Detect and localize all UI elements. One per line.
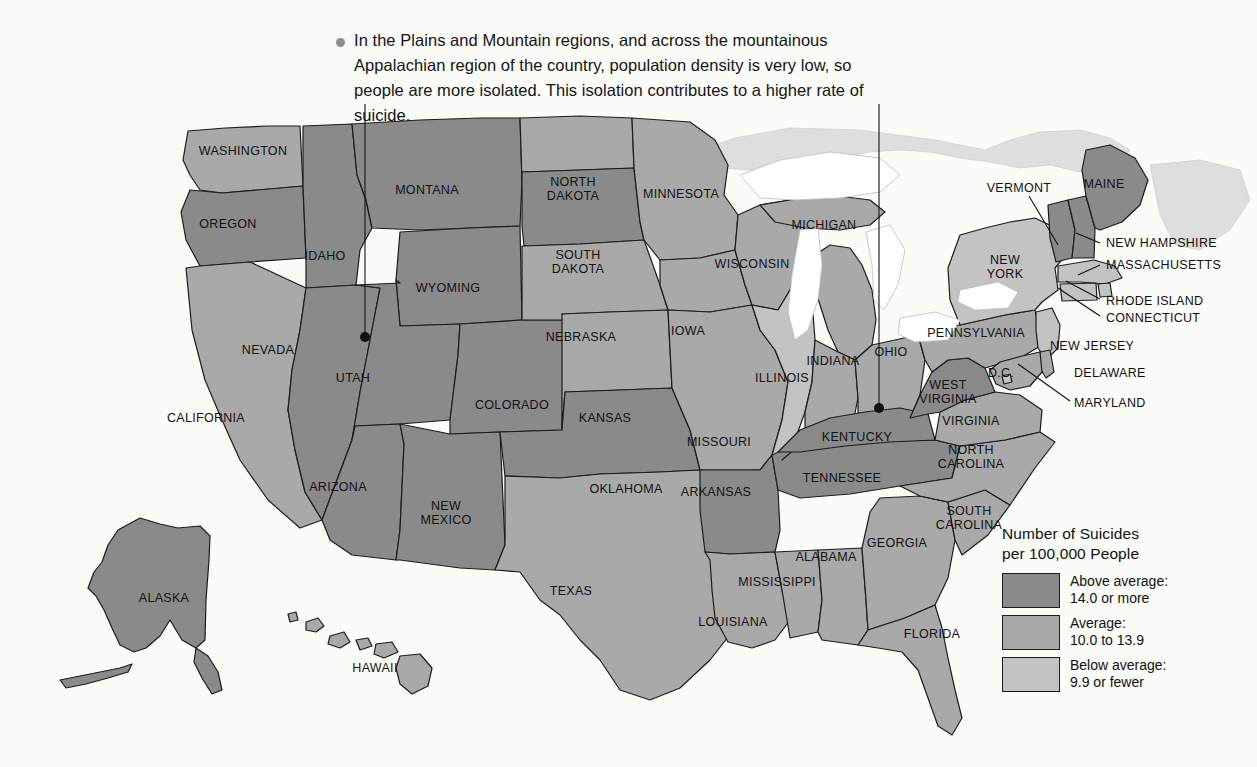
state-MN [632, 118, 738, 260]
hawaii-islands [288, 612, 432, 694]
legend-title: Number of Suicides per 100,000 People [1002, 524, 1252, 565]
edge-label-ct: CONNECTICUT [1106, 311, 1200, 325]
legend-title-line2: per 100,000 People [1002, 544, 1252, 564]
legend-title-line1: Number of Suicides [1002, 524, 1252, 544]
legend-rows: Above average:14.0 or moreAverage:10.0 t… [1002, 573, 1252, 692]
legend-label-average: Average:10.0 to 13.9 [1070, 615, 1144, 650]
legend-label-above: Above average:14.0 or more [1070, 573, 1168, 608]
state-WY [396, 226, 522, 326]
legend-label-below: Below average:9.9 or fewer [1070, 657, 1167, 692]
legend-label-line1: Average: [1070, 615, 1144, 633]
edge-label-nj: NEW JERSEY [1050, 339, 1134, 353]
state-AL [818, 548, 868, 645]
legend-swatch-above [1002, 573, 1060, 608]
legend-swatch-average [1002, 615, 1060, 650]
state-HI-2 [328, 632, 350, 648]
legend-label-line1: Below average: [1070, 657, 1167, 675]
state-AK-islands [60, 664, 132, 688]
state-CO [450, 320, 565, 434]
edge-label-de: DELAWARE [1074, 366, 1146, 380]
state-GA [862, 496, 955, 630]
legend-item-average: Average:10.0 to 13.9 [1002, 615, 1252, 650]
legend-item-above: Above average:14.0 or more [1002, 573, 1252, 608]
appalachian-leader-dot [874, 403, 884, 413]
legend-label-line2: 9.9 or fewer [1070, 674, 1167, 692]
edge-label-ri: RHODE ISLAND [1106, 294, 1203, 308]
state-HI-6 [288, 612, 298, 622]
state-DC [1002, 374, 1012, 384]
callout-text: In the Plains and Mountain regions, and … [354, 28, 896, 128]
state-CT [1060, 283, 1097, 301]
state-HI-4 [374, 642, 398, 658]
legend-label-line2: 10.0 to 13.9 [1070, 632, 1144, 650]
state-OR [181, 186, 306, 266]
state-HI-1 [306, 618, 324, 632]
state-AR [700, 455, 780, 554]
legend-label-line2: 14.0 or more [1070, 590, 1168, 608]
edge-label-md: MARYLAND [1074, 396, 1146, 410]
legend-swatch-below [1002, 657, 1060, 692]
state-WA [183, 126, 303, 193]
state-AK [88, 518, 210, 652]
state-ME [1082, 145, 1148, 230]
state-AK-panhandle [194, 648, 222, 694]
callout-annotation: In the Plains and Mountain regions, and … [336, 28, 896, 128]
edge-label-ma: MASSACHUSETTS [1106, 258, 1221, 272]
legend-label-line1: Above average: [1070, 573, 1168, 591]
edge-label-nh: NEW HAMPSHIRE [1106, 236, 1217, 250]
state-HI-5 [396, 654, 432, 694]
plains-leader-dot [360, 332, 370, 342]
state-HI-3 [356, 638, 372, 650]
state-NM [396, 424, 505, 570]
state-SD [522, 168, 644, 246]
state-MT [352, 118, 522, 230]
legend-item-below: Below average:9.9 or fewer [1002, 657, 1252, 692]
state-NE [522, 240, 668, 320]
bullet-dot-icon [336, 38, 345, 47]
choropleth-map-figure: WASHINGTONOREGONCALIFORNIANEVADAIDAHOMON… [0, 0, 1257, 767]
map-legend: Number of Suicides per 100,000 People Ab… [1002, 524, 1252, 699]
